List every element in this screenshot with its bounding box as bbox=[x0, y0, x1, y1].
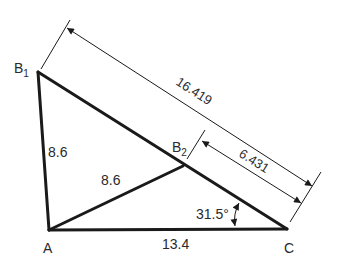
vertex-label-a: A bbox=[43, 240, 53, 256]
dimension-label-b2-c: 6.431 bbox=[236, 146, 272, 176]
vertex-label-b2: B2 bbox=[172, 139, 187, 158]
extension-line-c bbox=[290, 172, 321, 222]
vertex-label-b1: B1 bbox=[14, 60, 29, 79]
triangle-diagram: B1 B2 A C 8.6 8.6 13.4 16.419 6.431 31.5… bbox=[0, 0, 339, 269]
extension-line-b2 bbox=[187, 130, 205, 159]
side-length-a-c: 13.4 bbox=[162, 236, 189, 252]
dimension-line-b1-c bbox=[67, 28, 312, 186]
angle-arc bbox=[235, 203, 240, 226]
extension-line-b1 bbox=[41, 20, 70, 69]
side-a-c bbox=[49, 229, 287, 230]
extension-lines bbox=[41, 20, 321, 222]
side-length-a-b1: 8.6 bbox=[48, 144, 68, 160]
angle-indicator bbox=[235, 203, 240, 226]
dimension-label-b1-c: 16.419 bbox=[173, 74, 215, 108]
side-length-a-b2: 8.6 bbox=[101, 172, 121, 188]
vertex-label-c: C bbox=[284, 240, 294, 256]
angle-label-c: 31.5° bbox=[196, 206, 229, 222]
